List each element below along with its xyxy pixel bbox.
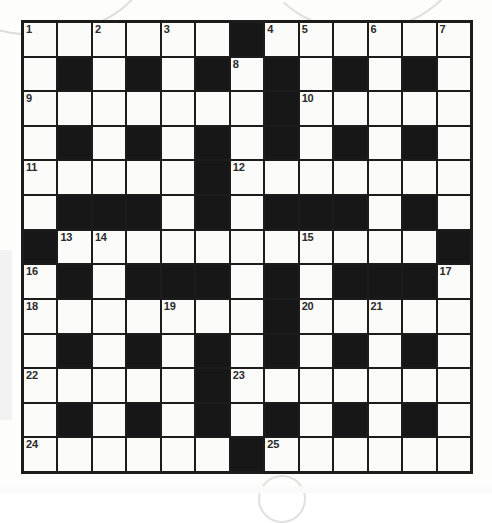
crossword-grid[interactable]: 1234567891011121314151617181920212223242… <box>21 20 473 474</box>
crossword-letter-cell[interactable] <box>334 23 366 56</box>
crossword-letter-cell[interactable] <box>369 369 401 402</box>
crossword-letter-cell[interactable] <box>196 92 228 125</box>
crossword-letter-cell[interactable] <box>93 438 125 471</box>
crossword-letter-cell[interactable]: 11 <box>24 161 56 194</box>
crossword-letter-cell[interactable] <box>162 196 194 229</box>
crossword-letter-cell[interactable] <box>231 196 263 229</box>
crossword-letter-cell[interactable]: 7 <box>438 23 470 56</box>
crossword-letter-cell[interactable]: 9 <box>24 92 56 125</box>
crossword-letter-cell[interactable] <box>438 335 470 368</box>
crossword-letter-cell[interactable]: 17 <box>438 265 470 298</box>
crossword-letter-cell[interactable] <box>403 300 435 333</box>
crossword-letter-cell[interactable]: 19 <box>162 300 194 333</box>
crossword-letter-cell[interactable] <box>334 92 366 125</box>
crossword-letter-cell[interactable]: 6 <box>369 23 401 56</box>
crossword-letter-cell[interactable] <box>438 404 470 437</box>
crossword-letter-cell[interactable] <box>231 335 263 368</box>
crossword-letter-cell[interactable] <box>24 127 56 160</box>
crossword-letter-cell[interactable] <box>58 369 90 402</box>
crossword-letter-cell[interactable] <box>265 369 297 402</box>
crossword-letter-cell[interactable] <box>438 300 470 333</box>
crossword-letter-cell[interactable] <box>300 369 332 402</box>
crossword-letter-cell[interactable] <box>231 92 263 125</box>
crossword-letter-cell[interactable] <box>403 231 435 264</box>
crossword-letter-cell[interactable]: 12 <box>231 161 263 194</box>
crossword-letter-cell[interactable] <box>58 23 90 56</box>
crossword-letter-cell[interactable] <box>369 335 401 368</box>
crossword-letter-cell[interactable] <box>369 196 401 229</box>
crossword-letter-cell[interactable] <box>369 127 401 160</box>
crossword-letter-cell[interactable] <box>162 369 194 402</box>
crossword-letter-cell[interactable] <box>231 231 263 264</box>
crossword-letter-cell[interactable]: 16 <box>24 265 56 298</box>
crossword-letter-cell[interactable] <box>162 438 194 471</box>
crossword-letter-cell[interactable] <box>403 161 435 194</box>
crossword-letter-cell[interactable] <box>438 58 470 91</box>
crossword-letter-cell[interactable] <box>162 335 194 368</box>
crossword-letter-cell[interactable] <box>438 438 470 471</box>
crossword-letter-cell[interactable] <box>196 23 228 56</box>
crossword-letter-cell[interactable] <box>24 335 56 368</box>
crossword-letter-cell[interactable] <box>369 161 401 194</box>
crossword-letter-cell[interactable] <box>196 300 228 333</box>
crossword-letter-cell[interactable] <box>58 438 90 471</box>
crossword-letter-cell[interactable] <box>231 404 263 437</box>
crossword-letter-cell[interactable] <box>403 23 435 56</box>
crossword-letter-cell[interactable] <box>93 404 125 437</box>
crossword-letter-cell[interactable] <box>369 438 401 471</box>
crossword-letter-cell[interactable] <box>403 438 435 471</box>
crossword-letter-cell[interactable] <box>334 438 366 471</box>
crossword-letter-cell[interactable] <box>93 92 125 125</box>
crossword-letter-cell[interactable]: 18 <box>24 300 56 333</box>
crossword-letter-cell[interactable] <box>403 92 435 125</box>
crossword-letter-cell[interactable] <box>265 231 297 264</box>
crossword-letter-cell[interactable] <box>58 161 90 194</box>
crossword-letter-cell[interactable] <box>300 265 332 298</box>
crossword-letter-cell[interactable] <box>127 231 159 264</box>
crossword-letter-cell[interactable] <box>58 300 90 333</box>
crossword-letter-cell[interactable] <box>58 92 90 125</box>
crossword-letter-cell[interactable] <box>334 300 366 333</box>
crossword-letter-cell[interactable] <box>300 58 332 91</box>
crossword-letter-cell[interactable] <box>438 196 470 229</box>
crossword-letter-cell[interactable] <box>300 127 332 160</box>
crossword-letter-cell[interactable]: 8 <box>231 58 263 91</box>
crossword-letter-cell[interactable] <box>369 92 401 125</box>
crossword-letter-cell[interactable]: 21 <box>369 300 401 333</box>
crossword-letter-cell[interactable] <box>93 300 125 333</box>
crossword-letter-cell[interactable] <box>334 231 366 264</box>
crossword-letter-cell[interactable] <box>93 161 125 194</box>
crossword-letter-cell[interactable] <box>127 300 159 333</box>
crossword-letter-cell[interactable] <box>127 92 159 125</box>
crossword-letter-cell[interactable] <box>369 404 401 437</box>
crossword-letter-cell[interactable] <box>162 127 194 160</box>
crossword-letter-cell[interactable] <box>127 438 159 471</box>
crossword-letter-cell[interactable] <box>24 196 56 229</box>
crossword-letter-cell[interactable] <box>334 161 366 194</box>
crossword-letter-cell[interactable] <box>231 127 263 160</box>
crossword-letter-cell[interactable] <box>196 231 228 264</box>
crossword-letter-cell[interactable] <box>127 23 159 56</box>
crossword-letter-cell[interactable]: 1 <box>24 23 56 56</box>
crossword-letter-cell[interactable] <box>231 265 263 298</box>
crossword-letter-cell[interactable] <box>369 58 401 91</box>
crossword-letter-cell[interactable]: 24 <box>24 438 56 471</box>
crossword-letter-cell[interactable] <box>265 161 297 194</box>
crossword-letter-cell[interactable] <box>196 438 228 471</box>
crossword-letter-cell[interactable] <box>24 404 56 437</box>
crossword-letter-cell[interactable]: 20 <box>300 300 332 333</box>
crossword-letter-cell[interactable] <box>127 369 159 402</box>
crossword-letter-cell[interactable]: 22 <box>24 369 56 402</box>
crossword-letter-cell[interactable] <box>162 92 194 125</box>
crossword-letter-cell[interactable] <box>93 335 125 368</box>
crossword-letter-cell[interactable] <box>300 438 332 471</box>
crossword-letter-cell[interactable] <box>162 404 194 437</box>
crossword-letter-cell[interactable] <box>127 161 159 194</box>
crossword-letter-cell[interactable] <box>438 369 470 402</box>
crossword-letter-cell[interactable]: 2 <box>93 23 125 56</box>
crossword-letter-cell[interactable] <box>300 335 332 368</box>
crossword-letter-cell[interactable] <box>231 300 263 333</box>
crossword-letter-cell[interactable] <box>334 369 366 402</box>
crossword-letter-cell[interactable]: 25 <box>265 438 297 471</box>
crossword-letter-cell[interactable]: 15 <box>300 231 332 264</box>
